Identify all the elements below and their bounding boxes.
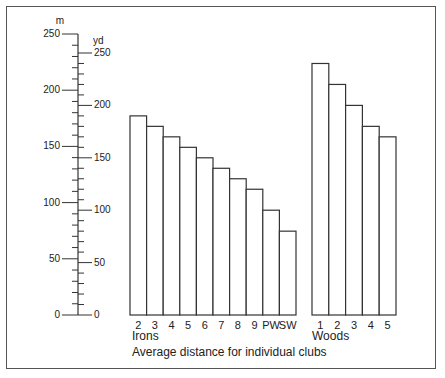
bars — [130, 63, 396, 315]
yd-tick-label: 50 — [94, 257, 106, 268]
yd-tick-label: 100 — [94, 204, 111, 215]
x-tick-label: 8 — [235, 319, 241, 331]
bar-irons-5 — [180, 147, 197, 315]
bar-woods-5 — [379, 137, 396, 315]
m-tick-label: 200 — [43, 84, 60, 95]
x-tick-label: 6 — [202, 319, 208, 331]
m-tick-label: 250 — [43, 28, 60, 39]
category-labels: 23456789PWSW12345 — [135, 319, 390, 331]
yd-tick-label: 0 — [94, 309, 100, 320]
m-tick-label: 150 — [43, 140, 60, 151]
m-unit-label: m — [56, 15, 64, 26]
bar-woods-3 — [346, 105, 363, 315]
x-tick-label: 3 — [351, 319, 357, 331]
bar-irons-SW — [279, 231, 296, 315]
x-tick-label: PW — [262, 319, 280, 331]
woods-group-label: Woods — [312, 329, 349, 343]
x-tick-label: 9 — [251, 319, 257, 331]
bar-chart: 050100150200250050100150200250 23456789P… — [0, 0, 445, 378]
bar-woods-1 — [312, 63, 329, 315]
yd-tick-label: 250 — [94, 47, 111, 58]
chart-caption: Average distance for individual clubs — [132, 345, 327, 359]
yd-tick-label: 200 — [94, 99, 111, 110]
x-tick-label: 5 — [185, 319, 191, 331]
yd-unit-label: yd — [93, 35, 104, 46]
x-tick-label: 7 — [218, 319, 224, 331]
bar-irons-9 — [246, 189, 263, 315]
m-tick-label: 0 — [54, 309, 60, 320]
x-tick-label: 4 — [368, 319, 374, 331]
bar-irons-3 — [147, 126, 164, 315]
x-tick-label: 5 — [385, 319, 391, 331]
bar-irons-4 — [163, 137, 180, 315]
x-tick-label: SW — [279, 319, 297, 331]
m-tick-label: 50 — [49, 253, 61, 264]
dual-scale-axis: 050100150200250050100150200250 — [43, 28, 111, 320]
x-tick-label: 4 — [168, 319, 174, 331]
bar-irons-PW — [263, 210, 280, 315]
bar-woods-2 — [329, 84, 346, 315]
irons-group-label: Irons — [132, 329, 159, 343]
m-tick-label: 100 — [43, 197, 60, 208]
bar-irons-6 — [196, 158, 213, 315]
bar-irons-8 — [230, 179, 247, 315]
bar-irons-2 — [130, 116, 147, 315]
bar-irons-7 — [213, 168, 230, 315]
bar-woods-4 — [362, 126, 379, 315]
yd-tick-label: 150 — [94, 152, 111, 163]
